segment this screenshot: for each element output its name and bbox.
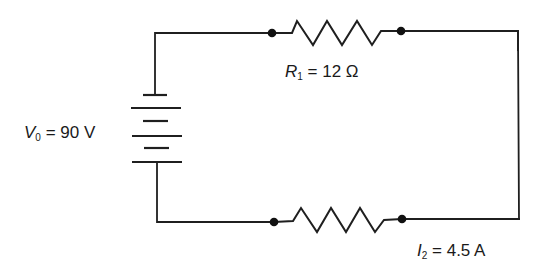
wire-top-left: [155, 33, 272, 95]
current-value: 4.5 A: [447, 241, 486, 260]
resistor-r2: [274, 208, 402, 232]
battery-voltage-label: V0 = 90 V: [24, 124, 95, 143]
node-top-left: [268, 29, 277, 38]
wire-right: [518, 31, 519, 219]
resistor-r1: [272, 21, 401, 45]
resistance-equals: =: [303, 62, 322, 81]
current-equals: =: [427, 241, 446, 260]
node-bottom-right: [398, 215, 407, 224]
wire-top-right: [401, 31, 518, 50]
resistance-symbol: R: [285, 62, 297, 81]
node-top-right: [397, 27, 406, 36]
voltage-equals: =: [41, 123, 60, 142]
voltage-symbol: V: [24, 123, 35, 142]
resistance-value: 12 Ω: [322, 62, 358, 81]
wire-bottom-left: [157, 162, 274, 222]
battery-icon: [131, 95, 182, 162]
voltage-value: 90 V: [60, 123, 95, 142]
current-label: I2 = 4.5 A: [417, 242, 485, 261]
resistor-r1-label: R1 = 12 Ω: [285, 63, 359, 82]
node-bottom-left: [270, 218, 279, 227]
